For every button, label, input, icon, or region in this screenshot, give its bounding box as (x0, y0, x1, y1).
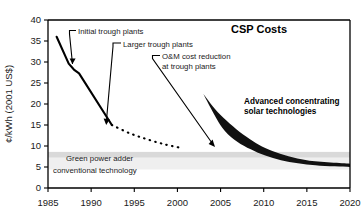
y-tick-label-35: 35 (30, 35, 41, 46)
annotation-om-cost-reduction-line2: at trough plants (162, 62, 216, 71)
csp-costs-chart: 0510152025303540 19851990199520002005201… (0, 0, 362, 224)
y-tick-label-40: 40 (30, 14, 41, 25)
x-tick-label-2005: 2005 (210, 197, 231, 208)
annotation-initial-trough-plants: Initial trough plants (78, 27, 144, 36)
y-tick-label-15: 15 (30, 119, 41, 130)
x-tick-label-1995: 1995 (124, 197, 145, 208)
x-tick-label-1990: 1990 (81, 197, 102, 208)
y-tick-label-5: 5 (36, 161, 41, 172)
x-tick-label-2020: 2020 (339, 197, 360, 208)
y-tick-label-30: 30 (30, 56, 41, 67)
y-tick-label-0: 0 (36, 182, 41, 193)
y-axis-title: ¢/kWh (2001 US$) (3, 65, 14, 143)
x-tick-label-2000: 2000 (167, 197, 188, 208)
annotation-conventional-technology: conventional technology (53, 166, 137, 175)
x-tick-label-group: 19851990199520002005201020152020 (37, 197, 360, 208)
x-tick-label-2010: 2010 (253, 197, 274, 208)
y-tick-label-group: 0510152025303540 (30, 14, 41, 193)
chart-title: CSP Costs (231, 23, 287, 35)
y-tick-label-20: 20 (30, 98, 41, 109)
annotation-om-cost-reduction-line1: O&M cost reduction (162, 52, 230, 61)
annotation-advanced-solar-line2: solar technologies (244, 107, 317, 116)
y-tick-label-25: 25 (30, 77, 41, 88)
x-tick-label-1985: 1985 (37, 197, 58, 208)
annotation-green-power-adder: Green power adder (66, 154, 134, 163)
y-tick-label-10: 10 (30, 140, 41, 151)
x-tick-label-2015: 2015 (296, 197, 317, 208)
annotation-larger-trough-plants: Larger trough plants (123, 40, 193, 49)
annotation-advanced-solar-line1: Advanced concentrating (244, 97, 340, 106)
chart-root: 0510152025303540 19851990199520002005201… (0, 0, 362, 224)
